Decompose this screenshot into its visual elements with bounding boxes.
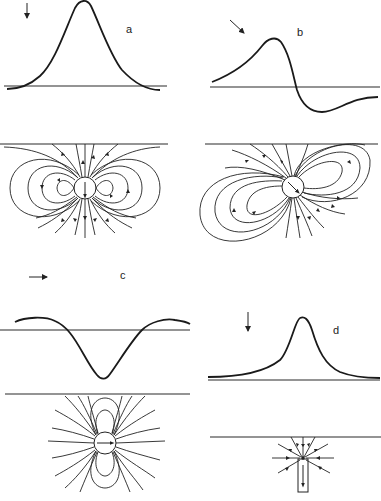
figure-canvas: a (0, 0, 381, 501)
panel-c: c (0, 269, 190, 492)
dipole-field-lines (48, 396, 165, 492)
dipole-field-lines (200, 144, 370, 241)
panel-label: a (126, 23, 133, 35)
anomaly-profile-curve (7, 1, 160, 90)
anomaly-profile-curve (208, 317, 380, 378)
panel-a: a (0, 1, 168, 238)
panel-label: c (120, 269, 126, 281)
panel-d: d (208, 312, 381, 492)
dipole-field-lines (4, 144, 160, 238)
anomaly-profile-curve (212, 39, 378, 112)
field-direction-arrow-icon (230, 20, 244, 33)
anomaly-profile-curve (15, 318, 190, 379)
pole-field-lines (272, 437, 334, 492)
panel-b: b (200, 20, 380, 241)
panel-label: d (333, 324, 339, 336)
panel-label: b (297, 26, 303, 38)
